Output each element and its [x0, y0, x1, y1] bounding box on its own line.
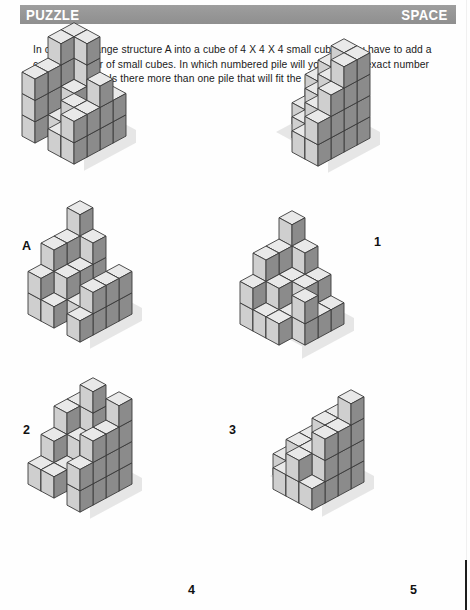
- figure-3-label: 3: [229, 424, 236, 437]
- figure-5-label: 5: [410, 584, 417, 597]
- figure-5: [256, 444, 456, 610]
- page-edge-line: [465, 560, 467, 610]
- figure-5-canvas: [256, 444, 456, 610]
- figure-4-label: 4: [188, 584, 195, 597]
- figure-1-label: 1: [374, 236, 381, 249]
- figure-2-label: 2: [23, 424, 30, 437]
- page-edge-faint: [466, 0, 467, 560]
- figure-gallery: A12345: [0, 0, 470, 610]
- figure-a-label: A: [22, 240, 31, 253]
